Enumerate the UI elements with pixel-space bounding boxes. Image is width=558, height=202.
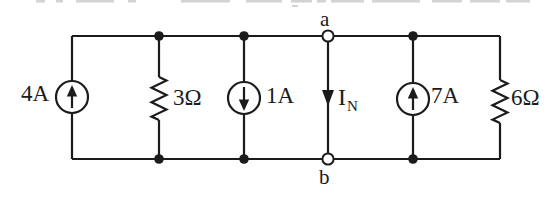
terminal-a-label: a <box>320 9 329 30</box>
current-source-7A-label: 7A <box>431 84 459 107</box>
junction-dot <box>408 31 418 41</box>
current-source-1A-label: 1A <box>266 84 294 107</box>
cropped-text-fragments <box>36 0 530 7</box>
junction-dot <box>154 31 164 41</box>
norton-current-subscript: N <box>347 98 358 114</box>
junction-dot <box>239 154 249 164</box>
resistor-3ohm-label: 3Ω <box>173 86 202 109</box>
norton-current-label: IN <box>338 85 357 109</box>
junction-dot <box>154 154 164 164</box>
norton-current-symbol: I <box>338 84 346 110</box>
resistor-6ohm-zigzag <box>493 80 508 123</box>
junction-dot <box>239 31 249 41</box>
resistor-6ohm-label: 6Ω <box>511 86 540 109</box>
junction-dot <box>408 154 418 164</box>
resistor-3ohm-zigzag <box>152 77 167 120</box>
resistor-3ohm <box>152 36 167 159</box>
terminal-a-node <box>322 30 333 41</box>
norton-current-arrow-icon <box>322 90 334 106</box>
current-source-4A-label: 4A <box>21 82 49 105</box>
resistor-6ohm <box>493 36 508 159</box>
terminal-b-node <box>322 153 333 164</box>
terminal-b-label: b <box>319 167 330 188</box>
circuit-diagram: 4A 3Ω 1A IN 7A 6Ω a b <box>0 0 558 202</box>
